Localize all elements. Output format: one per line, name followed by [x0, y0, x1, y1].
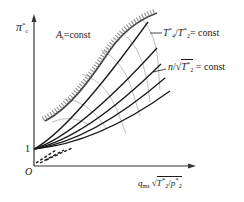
temperature-ratio-lines	[34, 22, 170, 149]
speed-line-5	[121, 32, 150, 102]
temp-line-3	[34, 64, 161, 149]
compressor-map-diagram: π*c At=const 1 O T*4/T*2= const n/√T*2 =…	[0, 0, 244, 202]
x-axis-label: qms √T*2/p*2	[138, 177, 182, 189]
temperature-ratio-label: T*4/T*2= const	[163, 27, 219, 39]
dashed-extensions	[36, 148, 72, 163]
y-axis-label: π*c	[16, 21, 28, 34]
temp-line-4	[34, 78, 165, 149]
surge-line-label: At=const	[56, 30, 91, 41]
y-axis-arrow	[32, 14, 37, 22]
corrected-speed-label: n/√T*2 = const	[168, 61, 225, 73]
x-axis-arrow	[188, 164, 196, 169]
origin-label: O	[25, 167, 32, 177]
y-tick-one: 1	[25, 144, 30, 154]
